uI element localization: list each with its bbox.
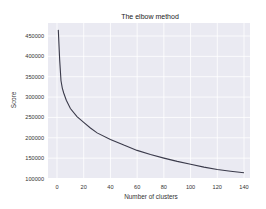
x-tick-label: 0 bbox=[55, 184, 58, 190]
y-tick-label: 300000 bbox=[25, 94, 44, 100]
x-axis-ticks: 020406080100120140 bbox=[55, 184, 248, 190]
y-axis-ticks: 1000001500002000002500003000003500004000… bbox=[25, 33, 44, 182]
y-tick-label: 250000 bbox=[25, 114, 44, 120]
x-tick-label: 100 bbox=[186, 184, 195, 190]
y-tick-label: 150000 bbox=[25, 155, 44, 161]
y-tick-label: 200000 bbox=[25, 135, 44, 141]
plot-area bbox=[48, 23, 250, 178]
x-tick-label: 40 bbox=[107, 184, 113, 190]
y-tick-label: 450000 bbox=[25, 33, 44, 39]
y-tick-label: 100000 bbox=[25, 176, 44, 182]
x-axis-label: Number of clusters bbox=[124, 193, 178, 200]
elbow-chart: The elbow method 10000015000020000025000… bbox=[0, 0, 266, 209]
x-tick-label: 20 bbox=[81, 184, 87, 190]
y-axis-label: Score bbox=[10, 91, 17, 108]
x-tick-label: 80 bbox=[161, 184, 167, 190]
x-tick-label: 120 bbox=[213, 184, 222, 190]
x-tick-label: 60 bbox=[134, 184, 140, 190]
y-tick-label: 350000 bbox=[25, 74, 44, 80]
y-tick-label: 400000 bbox=[25, 53, 44, 59]
x-tick-label: 140 bbox=[239, 184, 248, 190]
chart-title: The elbow method bbox=[121, 13, 179, 20]
